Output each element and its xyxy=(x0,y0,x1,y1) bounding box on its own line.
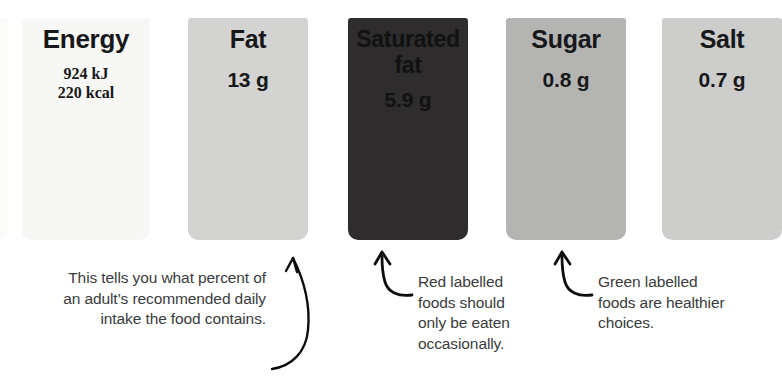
nutrient-amount-sugar: 0.8 g xyxy=(506,68,626,92)
nutrient-amount-energy-kj: 924 kJ xyxy=(22,64,150,83)
callout-arrow-red xyxy=(375,252,412,295)
panel-background xyxy=(0,18,8,240)
nutrient-name-energy: Energy xyxy=(22,26,150,52)
callout-arrow-percent xyxy=(272,258,309,369)
panel-header: Salt 0.7 g xyxy=(662,26,782,92)
annotation-percent-explainer: This tells you what percent of an adult’… xyxy=(48,268,266,330)
callout-arrow-green xyxy=(555,252,592,295)
sugar-percent-badge: <1% xyxy=(512,0,620,2)
panel-header: Sugar 0.8 g xyxy=(506,26,626,92)
nutrient-amount-salt: 0.7 g xyxy=(662,68,782,92)
nutrient-amount-energy-kcal: 220 kcal xyxy=(22,83,150,102)
panel-header: Saturated fat 5.9 g xyxy=(348,26,468,112)
saturated-fat-percent-badge: 30% xyxy=(354,0,462,2)
nutrient-name-saturated-fat-line2: fat xyxy=(348,52,468,78)
energy-percent-badge: 15% xyxy=(28,0,144,2)
nutrient-amount-fat: 13 g xyxy=(188,68,308,92)
nutrient-amount-saturated-fat: 5.9 g xyxy=(348,88,468,112)
nutrient-name-fat: Fat xyxy=(188,26,308,52)
panel-header: Fat 13 g xyxy=(188,26,308,92)
nutrient-name-saturated-fat: Saturated xyxy=(348,26,468,52)
annotation-green-explainer: Green labelled foods are healthier choic… xyxy=(598,272,738,334)
nutrient-name-sugar: Sugar xyxy=(506,26,626,52)
panel-header: Energy 924 kJ 220 kcal xyxy=(22,26,150,102)
salt-percent-badge: 12% xyxy=(668,0,776,2)
annotation-red-explainer: Red labelled foods should only be eaten … xyxy=(418,272,526,354)
fat-percent-badge: 19% xyxy=(194,0,302,2)
nutrient-name-salt: Salt xyxy=(662,26,782,52)
